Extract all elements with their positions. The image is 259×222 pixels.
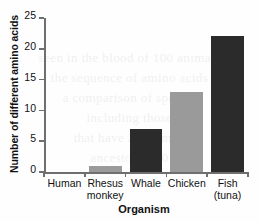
x-label-chicken: Chicken [166, 177, 207, 189]
bar-rhesus-monkey [89, 166, 122, 172]
x-label-line: Fish [218, 177, 238, 189]
y-tick-label-25: 25 [24, 9, 36, 21]
y-axis-line [44, 18, 46, 172]
y-tick-label-10: 10 [24, 102, 36, 114]
x-label-rhesus-monkey: Rhesusmonkey [85, 177, 126, 201]
x-label-line: Whale [131, 177, 161, 189]
x-label-line: Rhesus [87, 177, 123, 189]
y-tick-label-15: 15 [24, 71, 36, 83]
y-tick-5: 5 [39, 140, 44, 142]
y-tick-label-20: 20 [24, 40, 36, 52]
y-tick-10: 10 [39, 110, 44, 112]
y-tick-20: 20 [39, 48, 44, 50]
bar-chicken [170, 92, 203, 172]
y-tick-15: 15 [39, 79, 44, 81]
y-tick-label-0: 0 [30, 163, 36, 175]
plot-area: 0510152025 [44, 18, 248, 172]
x-label-line: monkey [85, 189, 126, 201]
bar-whale [130, 129, 163, 172]
y-tick-label-5: 5 [30, 132, 36, 144]
x-label-fish-tuna: Fish(tuna) [207, 177, 248, 201]
bar-chart-figure: seen in the blood of 100 animalsthe sequ… [0, 0, 259, 222]
x-label-line: Human [47, 177, 81, 189]
y-axis-title: Number of different amino acids [8, 14, 20, 174]
x-axis-line [44, 172, 248, 174]
x-label-human: Human [44, 177, 85, 189]
x-axis-title: Organism [44, 203, 244, 215]
x-label-line: (tuna) [207, 189, 248, 201]
x-label-line: Chicken [168, 177, 206, 189]
bar-fish-tuna [211, 36, 244, 172]
x-label-whale: Whale [126, 177, 167, 189]
y-tick-25: 25 [39, 17, 44, 19]
